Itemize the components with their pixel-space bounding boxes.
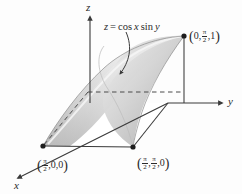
marker-corner (130, 144, 135, 149)
paren-open-top-right: ( (189, 29, 194, 44)
fraction-pi-over-2-corner-second: π2 (151, 156, 157, 172)
fraction-numerator: π (42, 158, 48, 165)
equation-sin: sin (141, 21, 153, 32)
x-axis-label: x (14, 180, 19, 191)
surface-equation-label: z=cosxsiny (104, 22, 160, 33)
y-axis-label: y (228, 96, 233, 107)
marker-x-axis (40, 143, 45, 148)
point-label-corner: (π2,π2,0) (137, 156, 169, 172)
equation-y: y (155, 21, 160, 32)
paren-close-corner: ) (165, 156, 170, 171)
paren-open-corner: ( (137, 156, 142, 171)
fraction-pi-over-2-corner-first: π2 (142, 156, 148, 172)
fraction-denominator: 2 (202, 36, 208, 44)
equation-lhs: z (104, 21, 108, 32)
paren-open-x-axis: ( (37, 158, 42, 173)
paren-close-top-right: ) (215, 29, 220, 44)
fraction-numerator: π (142, 156, 148, 163)
fraction-numerator: π (151, 156, 157, 163)
fraction-denominator: 2 (151, 163, 157, 171)
z-axis-label: z (86, 2, 90, 13)
fraction-pi-over-2-top-right: π2 (202, 29, 208, 45)
paren-close-x-axis: ) (63, 158, 68, 173)
marker-top-right (181, 33, 186, 38)
point-label-top-right: (0,π2,1) (189, 29, 220, 45)
fraction-denominator: 2 (142, 163, 148, 171)
coord-top-right-1: 0, (194, 30, 202, 41)
surface-figure: z y x z=cosxsiny (0,π2,1) (π2,0,0) (π2,π… (0, 0, 242, 194)
fraction-numerator: π (202, 29, 208, 36)
equation-equals: = (110, 21, 116, 32)
fraction-pi-over-2-x-axis: π2 (42, 158, 48, 174)
fraction-denominator: 2 (42, 165, 48, 173)
equation-x: x (134, 21, 139, 32)
point-label-x-axis: (π2,0,0) (37, 158, 68, 174)
equation-cos: cos (118, 21, 132, 32)
